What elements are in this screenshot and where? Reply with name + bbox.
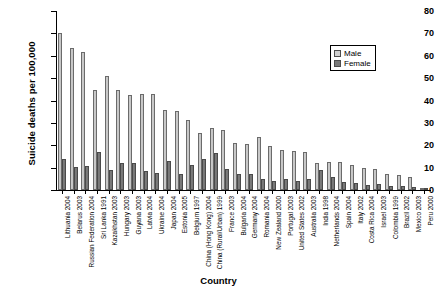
x-tick-label: France 2003	[228, 196, 235, 232]
bar-female	[109, 170, 113, 190]
bar-female	[179, 174, 183, 190]
bar-group	[348, 11, 360, 190]
bar-female	[307, 179, 311, 190]
x-tick	[284, 190, 285, 194]
x-tick	[202, 190, 203, 194]
bar-female	[214, 153, 218, 190]
y-tick	[51, 190, 56, 191]
bar-group	[220, 11, 232, 190]
bar-group	[114, 11, 126, 190]
bar-group	[395, 11, 407, 190]
x-tick-label: Spain 2004	[345, 196, 352, 228]
x-tick-label: Costa Rica 2004	[368, 196, 375, 243]
bar-group	[161, 11, 173, 190]
x-tick-label: Russian Federation 2004	[88, 196, 95, 267]
x-tick-label: Netherlands 2004	[333, 196, 340, 246]
bar-female	[225, 169, 229, 190]
x-tick	[412, 190, 413, 194]
bar-group	[372, 11, 384, 190]
y-axis-title: Suicide deaths per 100,000	[26, 9, 37, 199]
legend-item-male: Male	[334, 48, 371, 58]
x-tick	[237, 190, 238, 194]
x-tick	[97, 190, 98, 194]
x-tick	[249, 190, 250, 194]
bar-female	[249, 174, 253, 190]
x-tick-label: Germany 2004	[251, 196, 258, 238]
x-tick-label: Ukraine 2004	[158, 196, 165, 234]
x-tick-label: Romania 2004	[263, 196, 270, 238]
x-tick	[85, 190, 86, 194]
x-tick	[296, 190, 297, 194]
bar-female	[132, 163, 136, 190]
bar-female	[62, 159, 66, 190]
bar-female	[342, 182, 346, 191]
x-tick-label: China (Rural/Urban) 1999	[216, 196, 223, 269]
x-tick	[132, 190, 133, 194]
bar-group	[243, 11, 255, 190]
legend: Male Female	[330, 45, 376, 71]
x-tick	[389, 190, 390, 194]
x-tick	[377, 190, 378, 194]
x-axis-title: Country	[0, 275, 437, 286]
suicide-rate-bar-chart: Suicide deaths per 100,000 0102030405060…	[0, 0, 437, 297]
x-tick	[319, 190, 320, 194]
bar-female	[85, 166, 89, 190]
x-tick	[331, 190, 332, 194]
x-tick	[261, 190, 262, 194]
x-tick-label: Hungary 2003	[123, 196, 130, 236]
bar-group	[360, 11, 372, 190]
bar-group	[79, 11, 91, 190]
x-tick	[401, 190, 402, 194]
x-tick-label: Portugal 2003	[287, 196, 294, 236]
bar-female	[319, 170, 323, 190]
x-tick	[214, 190, 215, 194]
bar-group	[56, 11, 68, 190]
bar-group	[313, 11, 325, 190]
x-tick-label: New Zealand 2000	[275, 196, 282, 250]
x-tick-label: Israel 2003	[380, 196, 387, 228]
bar-group	[173, 11, 185, 190]
bar-group	[266, 11, 278, 190]
bar-group	[138, 11, 150, 190]
bar-group	[325, 11, 337, 190]
bar-female	[331, 177, 335, 190]
x-tick	[225, 190, 226, 194]
bar-group	[255, 11, 267, 190]
x-tick-label: Bulgaria 2004	[240, 196, 247, 235]
x-tick	[167, 190, 168, 194]
x-tick	[179, 190, 180, 194]
x-tick-label: Lithuania 2004	[64, 196, 71, 238]
bar-group	[185, 11, 197, 190]
bar-female	[237, 174, 241, 190]
bar-female	[190, 165, 194, 191]
bar-female	[202, 159, 206, 190]
legend-swatch-female	[334, 60, 341, 67]
x-tick-label: Latvia 2004	[146, 196, 153, 229]
bar-group	[103, 11, 115, 190]
x-tick	[155, 190, 156, 194]
x-tick	[74, 190, 75, 194]
bar-group	[68, 11, 80, 190]
bar-group	[126, 11, 138, 190]
bar-female	[296, 181, 300, 190]
bar-group	[150, 11, 162, 190]
legend-swatch-male	[334, 50, 341, 57]
bar-female	[261, 179, 265, 190]
x-tick-label: Sri Lanka 1991	[100, 196, 107, 239]
x-tick	[109, 190, 110, 194]
x-tick-label: Mexico 2003	[415, 196, 422, 232]
x-tick-label: Italy 2002	[357, 196, 364, 224]
x-tick-label: Colombia 1999	[392, 196, 399, 239]
x-tick-label: Estonia 2005	[181, 196, 188, 233]
x-tick	[190, 190, 191, 194]
x-tick-label: Brazil 2002	[403, 196, 410, 228]
x-tick-label: Peru 2000	[427, 196, 434, 226]
x-tick	[354, 190, 355, 194]
x-tick	[144, 190, 145, 194]
bar-female	[120, 163, 124, 190]
bar-group	[278, 11, 290, 190]
bar-group	[418, 11, 430, 190]
bar-group	[301, 11, 313, 190]
bar-group	[208, 11, 220, 190]
bar-female	[167, 161, 171, 190]
